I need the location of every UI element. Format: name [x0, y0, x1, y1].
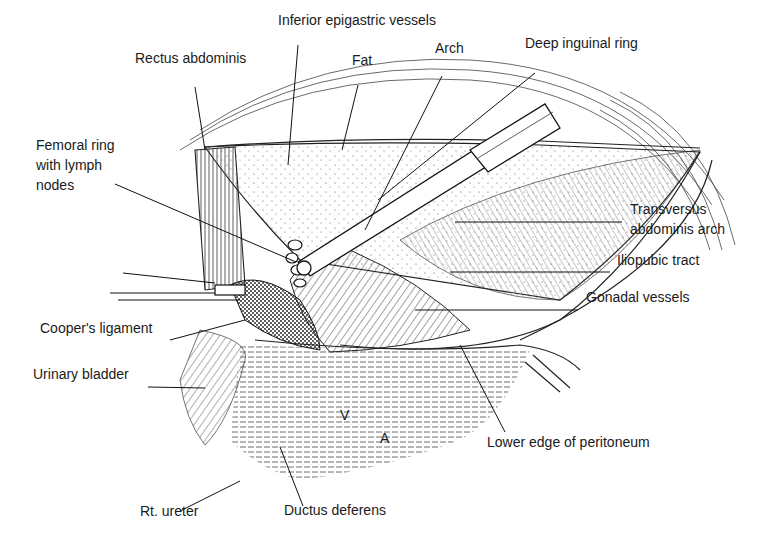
anatomical-illustration — [0, 0, 760, 555]
label-arch: Arch — [435, 40, 464, 57]
label-ductus-deferens: Ductus deferens — [284, 502, 386, 519]
label-rt-ureter: Rt. ureter — [140, 503, 198, 520]
label-transversus-line2: abdominis arch — [630, 221, 725, 238]
label-rectus-abdominis: Rectus abdominis — [135, 50, 246, 67]
label-lower-edge-peritoneum: Lower edge of peritoneum — [487, 434, 650, 451]
label-coopers-ligament: Cooper's ligament — [40, 320, 152, 337]
label-gonadal-vessels: Gonadal vessels — [586, 289, 690, 306]
label-fat: Fat — [352, 52, 372, 69]
label-transversus-line1: Transversus — [630, 201, 707, 218]
label-femoral-ring-line3: nodes — [36, 177, 74, 194]
label-inferior-epigastric-vessels: Inferior epigastric vessels — [278, 12, 436, 29]
vein-mark: V — [340, 407, 349, 423]
label-femoral-ring-line1: Femoral ring — [36, 137, 115, 154]
label-urinary-bladder: Urinary bladder — [33, 366, 129, 383]
label-femoral-ring-line2: with lymph — [36, 157, 102, 174]
label-deep-inguinal-ring: Deep inguinal ring — [525, 35, 638, 52]
label-iliopubic-tract: Iliopubic tract — [617, 252, 699, 269]
lower-fan-region — [230, 345, 530, 480]
artery-mark: A — [380, 430, 389, 446]
